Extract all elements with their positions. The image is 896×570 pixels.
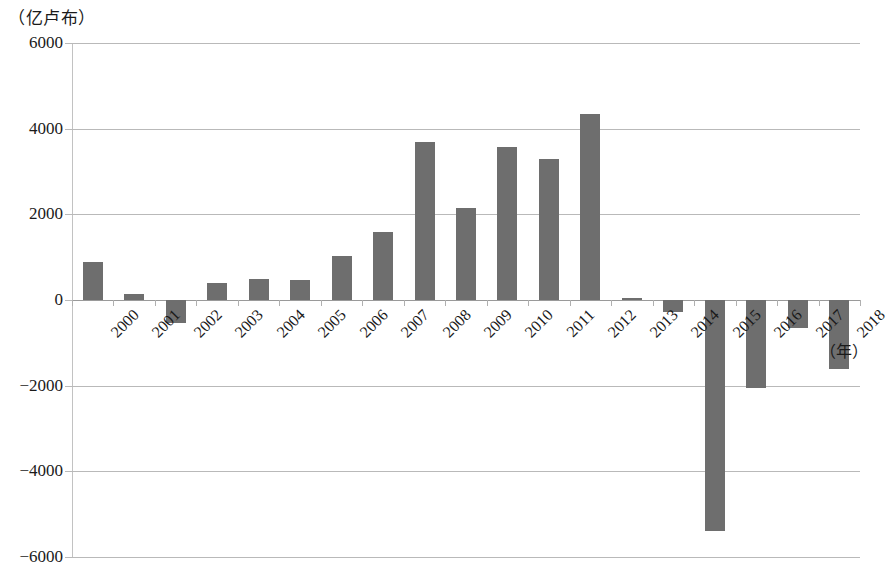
bar-2013[interactable] xyxy=(622,298,642,300)
bar-slot xyxy=(362,43,403,557)
bar-slot xyxy=(445,43,486,557)
y-tick-label: −2000 xyxy=(19,376,63,396)
bar-slot xyxy=(528,43,569,557)
bar-slot xyxy=(404,43,445,557)
x-tick-mark xyxy=(736,300,737,306)
x-tick-mark xyxy=(653,300,654,306)
x-tick-mark xyxy=(487,300,488,306)
gridline--6000 xyxy=(72,557,860,558)
bar-slot xyxy=(653,43,694,557)
y-tick-label: 6000 xyxy=(29,33,63,53)
x-tick-mark xyxy=(777,300,778,306)
bar-2007[interactable] xyxy=(373,232,393,300)
bar-slot xyxy=(570,43,611,557)
bar-2008[interactable] xyxy=(415,142,435,300)
x-tick-mark xyxy=(860,300,861,306)
x-tick-mark xyxy=(196,300,197,306)
bar-slot xyxy=(611,43,652,557)
y-tick-label: −4000 xyxy=(19,461,63,481)
bar-2000[interactable] xyxy=(83,262,103,300)
y-tick-mark xyxy=(65,386,72,387)
bar-2009[interactable] xyxy=(456,208,476,300)
y-tick-mark xyxy=(65,557,72,558)
x-tick-mark xyxy=(404,300,405,306)
x-tick-mark xyxy=(611,300,612,306)
x-tick-mark xyxy=(321,300,322,306)
x-tick-mark xyxy=(819,300,820,306)
bar-2003[interactable] xyxy=(207,283,227,300)
bar-2006[interactable] xyxy=(332,256,352,300)
x-tick-mark xyxy=(72,300,73,306)
plot-area: 6000400020000−2000−4000−6000 xyxy=(72,43,860,557)
y-tick-mark xyxy=(65,300,72,301)
bar-slot xyxy=(196,43,237,557)
x-axis-title: （年） xyxy=(820,338,868,362)
bar-slot xyxy=(694,43,735,557)
bar-2011[interactable] xyxy=(539,159,559,300)
bar-2004[interactable] xyxy=(249,279,269,300)
bar-slot xyxy=(279,43,320,557)
x-tick-mark xyxy=(279,300,280,306)
bar-2005[interactable] xyxy=(290,280,310,300)
bar-2012[interactable] xyxy=(580,114,600,300)
bar-slot xyxy=(113,43,154,557)
bar-slot xyxy=(487,43,528,557)
bar-chart: （亿卢布） 6000400020000−2000−4000−6000 20002… xyxy=(0,0,896,570)
y-tick-label: 4000 xyxy=(29,119,63,139)
y-tick-label: 2000 xyxy=(29,204,63,224)
bar-slot xyxy=(736,43,777,557)
bar-series xyxy=(72,43,860,557)
y-tick-mark xyxy=(65,214,72,215)
bar-2001[interactable] xyxy=(124,294,144,300)
y-tick-label: 0 xyxy=(55,290,64,310)
x-tick-mark xyxy=(570,300,571,306)
x-tick-mark xyxy=(155,300,156,306)
x-tick-mark xyxy=(362,300,363,306)
bar-slot xyxy=(819,43,860,557)
x-tick-mark xyxy=(528,300,529,306)
y-tick-mark xyxy=(65,471,72,472)
bar-2015[interactable] xyxy=(705,300,725,531)
x-tick-mark xyxy=(694,300,695,306)
y-tick-mark xyxy=(65,129,72,130)
x-tick-mark xyxy=(113,300,114,306)
y-tick-label: −6000 xyxy=(19,547,63,567)
bar-slot xyxy=(238,43,279,557)
bar-slot xyxy=(72,43,113,557)
bar-slot xyxy=(777,43,818,557)
bar-slot xyxy=(321,43,362,557)
x-tick-mark xyxy=(445,300,446,306)
x-tick-mark xyxy=(238,300,239,306)
bar-slot xyxy=(155,43,196,557)
y-tick-mark xyxy=(65,43,72,44)
bar-2010[interactable] xyxy=(497,147,517,300)
y-axis-unit-label: （亿卢布） xyxy=(8,4,96,29)
